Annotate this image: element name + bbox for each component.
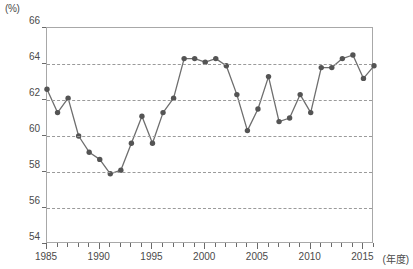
data-point-marker bbox=[266, 74, 271, 79]
y-axis-tick-label: 54 bbox=[14, 231, 40, 242]
x-axis-tick-mark bbox=[183, 243, 184, 247]
y-axis-tick-label: 62 bbox=[14, 87, 40, 98]
x-axis-tick-mark bbox=[78, 243, 79, 247]
y-axis-tick-label: 64 bbox=[14, 51, 40, 62]
x-axis-tick-mark bbox=[278, 243, 279, 247]
x-axis-tick-mark bbox=[141, 243, 142, 247]
gridline bbox=[47, 136, 372, 137]
x-axis-tick-label: 1985 bbox=[35, 251, 57, 262]
x-axis-tick-label: 2010 bbox=[299, 251, 321, 262]
x-axis-tick-mark bbox=[289, 243, 290, 247]
x-axis-tick-label: 1995 bbox=[140, 251, 162, 262]
x-axis-tick-mark bbox=[151, 243, 152, 249]
x-axis-tick-label: 1990 bbox=[88, 251, 110, 262]
data-point-marker bbox=[287, 115, 292, 120]
data-point-marker bbox=[181, 56, 186, 61]
x-axis-tick-mark bbox=[109, 243, 110, 247]
x-axis-caption: (年度) bbox=[382, 251, 409, 266]
x-axis-tick-mark bbox=[204, 243, 205, 249]
data-point-marker bbox=[308, 110, 313, 115]
y-axis-tick-label: 58 bbox=[14, 159, 40, 170]
data-point-marker bbox=[192, 56, 197, 61]
x-axis-tick-mark bbox=[373, 243, 374, 247]
x-axis-tick-label: 2000 bbox=[193, 251, 215, 262]
x-axis-tick-mark bbox=[341, 243, 342, 247]
data-point-marker bbox=[297, 92, 302, 97]
x-axis-tick-mark bbox=[194, 243, 195, 247]
x-axis-tick-mark bbox=[67, 243, 68, 247]
y-axis-tick-label: 66 bbox=[14, 15, 40, 26]
data-point-marker bbox=[245, 128, 250, 133]
x-axis-tick-mark bbox=[46, 243, 47, 249]
data-point-marker bbox=[150, 141, 155, 146]
data-point-marker bbox=[371, 63, 376, 68]
data-point-marker bbox=[129, 141, 134, 146]
x-axis-tick-mark bbox=[215, 243, 216, 247]
chart-container: (%) 66646260585654 198519901995200020052… bbox=[0, 0, 413, 269]
data-point-marker bbox=[160, 110, 165, 115]
y-axis-tick-mark bbox=[42, 135, 46, 136]
x-axis-tick-mark bbox=[130, 243, 131, 247]
x-axis-tick-mark bbox=[257, 243, 258, 249]
data-point-marker bbox=[350, 52, 355, 57]
x-axis-tick-mark bbox=[268, 243, 269, 247]
data-point-marker bbox=[55, 110, 60, 115]
x-axis-tick-mark bbox=[352, 243, 353, 247]
x-axis-tick-mark bbox=[246, 243, 247, 247]
x-axis-tick-mark bbox=[299, 243, 300, 247]
gridline bbox=[47, 64, 372, 65]
data-point-marker bbox=[86, 150, 91, 155]
x-axis-tick-mark bbox=[331, 243, 332, 247]
data-point-marker bbox=[97, 157, 102, 162]
y-axis-tick-label: 60 bbox=[14, 123, 40, 134]
y-axis-unit-label: (%) bbox=[5, 3, 20, 14]
y-axis-tick-label: 56 bbox=[14, 195, 40, 206]
gridline bbox=[47, 172, 372, 173]
x-axis-tick-label: 2005 bbox=[246, 251, 268, 262]
y-axis-tick-mark bbox=[42, 171, 46, 172]
y-axis-tick-mark bbox=[42, 207, 46, 208]
data-point-marker bbox=[340, 56, 345, 61]
x-axis-tick-mark bbox=[236, 243, 237, 247]
x-axis-tick-mark bbox=[362, 243, 363, 249]
x-axis-tick-mark bbox=[225, 243, 226, 247]
plot-area bbox=[46, 27, 373, 243]
x-axis-tick-mark bbox=[99, 243, 100, 249]
y-axis-tick-mark bbox=[42, 63, 46, 64]
data-point-marker bbox=[255, 106, 260, 111]
y-axis-tick-mark bbox=[42, 27, 46, 28]
data-point-marker bbox=[319, 65, 324, 70]
data-point-marker bbox=[361, 76, 366, 81]
gridline bbox=[47, 100, 372, 101]
data-point-marker bbox=[329, 65, 334, 70]
gridline bbox=[47, 208, 372, 209]
data-point-marker bbox=[213, 56, 218, 61]
data-point-marker bbox=[234, 92, 239, 97]
x-axis-tick-mark bbox=[320, 243, 321, 247]
x-axis-tick-label: 2015 bbox=[351, 251, 373, 262]
data-point-marker bbox=[139, 114, 144, 119]
data-point-marker bbox=[44, 87, 49, 92]
x-axis-tick-mark bbox=[88, 243, 89, 247]
x-axis-tick-mark bbox=[57, 243, 58, 247]
x-axis-tick-mark bbox=[162, 243, 163, 247]
y-axis-tick-mark bbox=[42, 99, 46, 100]
x-axis-tick-mark bbox=[310, 243, 311, 249]
data-point-marker bbox=[276, 119, 281, 124]
x-axis-tick-mark bbox=[173, 243, 174, 247]
x-axis-tick-mark bbox=[120, 243, 121, 247]
